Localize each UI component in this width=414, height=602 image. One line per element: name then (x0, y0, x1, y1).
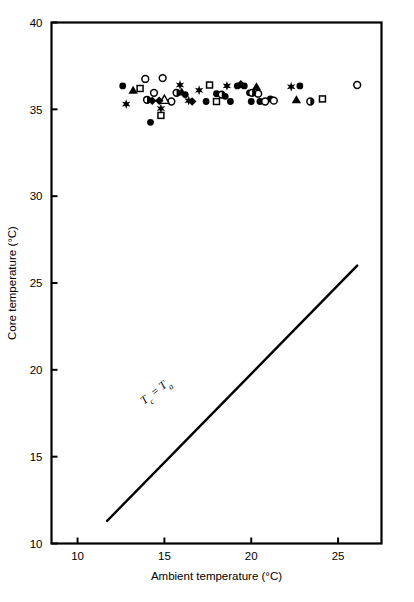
data-point-open-circle-4 (262, 98, 269, 105)
data-point-open-square-0 (137, 86, 143, 92)
data-point-filled-star-5 (223, 81, 232, 91)
data-point-open-square-3 (214, 99, 220, 105)
x-tick-label-15: 15 (158, 550, 171, 562)
y-tick-label-25: 25 (30, 277, 43, 289)
data-point-filled-circle-1 (147, 119, 154, 126)
data-point-open-circle-6 (354, 82, 361, 89)
data-point-filled-star-0 (176, 80, 185, 90)
y-axis-title: Core temperature (°C) (6, 226, 18, 340)
data-point-filled-circle-0 (119, 82, 126, 89)
data-point-open-square-4 (319, 96, 325, 102)
data-point-half-circle-3 (307, 98, 314, 105)
y-tick-label-20: 20 (30, 364, 43, 376)
identity-line-label-text: Tc = Ta (138, 376, 176, 411)
data-point-half-circle-1 (173, 89, 180, 96)
data-point-filled-star-4 (195, 85, 204, 95)
data-point-open-circle-3 (270, 97, 277, 104)
x-tick-label-25: 25 (332, 550, 345, 562)
data-point-filled-circle-13 (227, 98, 234, 105)
data-point-filled-star-1 (122, 99, 131, 109)
data-point-open-circle-7 (151, 89, 158, 96)
data-point-filled-circle-9 (203, 98, 210, 105)
data-point-half-circle-4 (218, 91, 225, 98)
data-markers-layer (119, 75, 360, 126)
data-point-filled-star-6 (287, 82, 296, 92)
x-tick-label-10: 10 (71, 550, 84, 562)
data-point-half-circle-2 (249, 89, 256, 96)
identity-reference-line (107, 266, 357, 521)
data-point-open-circle-1 (159, 75, 166, 82)
data-point-open-square-2 (207, 82, 213, 88)
y-tick-label-15: 15 (30, 451, 43, 463)
scatter-chart-figure: 1015202530354010152025Ambient temperatur… (0, 0, 414, 602)
data-point-filled-circle-11 (296, 82, 303, 89)
data-point-filled-triangle-3 (292, 95, 301, 103)
x-axis-title: Ambient temperature (°C) (151, 570, 282, 582)
y-tick-label-10: 10 (30, 538, 43, 550)
data-point-half-circle-0 (144, 96, 151, 103)
data-point-filled-circle-12 (248, 98, 255, 105)
chart-canvas: 1015202530354010152025Ambient temperatur… (0, 0, 414, 602)
y-tick-label-30: 30 (30, 190, 43, 202)
y-tick-label-40: 40 (30, 17, 43, 29)
data-point-open-circle-0 (142, 76, 149, 83)
x-tick-label-20: 20 (245, 550, 258, 562)
y-tick-label-35: 35 (30, 104, 43, 116)
identity-line-label: Tc = Ta (138, 376, 176, 411)
